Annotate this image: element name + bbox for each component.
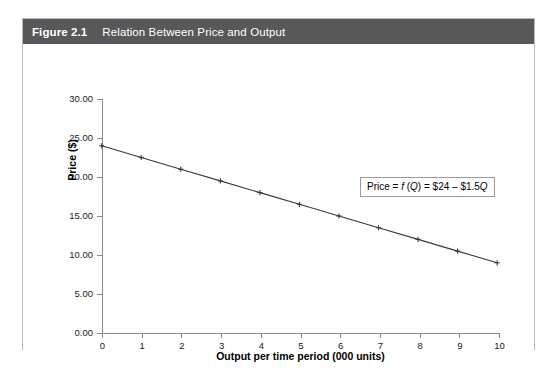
figure-header: Figure 2.1 Relation Between Price and Ou… — [23, 19, 534, 44]
data-point-marker — [178, 167, 183, 172]
data-point-marker — [376, 225, 381, 230]
data-point-marker — [455, 249, 460, 254]
chart-plot-area: 0.005.0010.0015.0020.0025.0030.00 012345… — [23, 44, 534, 350]
equation-prefix: Price = — [367, 181, 401, 192]
equation-annotation: Price = f (Q) = $24 – $1.5Q — [360, 177, 495, 197]
data-point-marker — [257, 190, 262, 195]
data-point-marker — [297, 202, 302, 207]
x-axis-title: Output per time period (000 units) — [102, 350, 499, 362]
figure-caption: Relation Between Price and Output — [102, 26, 285, 38]
equation-q-symbol-2: Q — [480, 181, 488, 192]
data-point-marker — [218, 178, 223, 183]
data-point-marker — [139, 155, 144, 160]
equation-close-paren: ) = $24 – $1.5 — [418, 181, 480, 192]
data-point-markers — [99, 143, 500, 265]
data-point-marker — [336, 213, 341, 218]
data-point-marker — [99, 143, 104, 148]
data-point-marker — [495, 260, 500, 265]
data-point-marker — [415, 237, 420, 242]
figure-card: Figure 2.1 Relation Between Price and Ou… — [22, 18, 535, 350]
equation-q-symbol-1: Q — [410, 181, 418, 192]
series-line-chart — [23, 44, 534, 350]
figure-number: Figure 2.1 — [32, 26, 87, 38]
